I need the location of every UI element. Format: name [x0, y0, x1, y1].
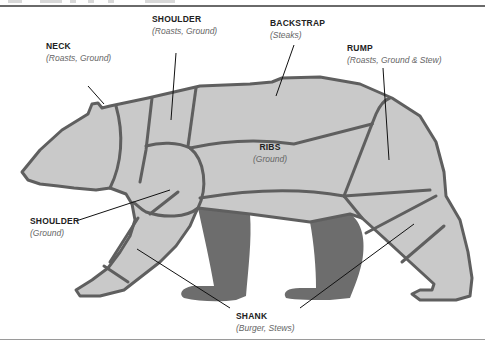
cut-uses: (Roasts, Ground) [152, 25, 217, 37]
cut-uses: (Roasts, Ground & Stew) [347, 54, 441, 66]
label-rump: RUMP (Roasts, Ground & Stew) [347, 42, 441, 66]
far-legs [181, 208, 363, 301]
cut-name: SHOULDER [30, 215, 79, 227]
label-shoulder-upper: SHOULDER (Roasts, Ground) [152, 13, 217, 37]
label-neck: NECK (Roasts, Ground) [46, 40, 111, 64]
cut-uses: (Steaks) [270, 29, 325, 41]
label-shank: SHANK (Burger, Stews) [236, 310, 295, 334]
cut-uses: (Burger, Stews) [236, 322, 295, 334]
label-ribs: RIBS (Ground) [240, 141, 300, 165]
label-shoulder-lower: SHOULDER (Ground) [30, 215, 79, 239]
bottom-divider [0, 339, 485, 340]
cut-name: BACKSTRAP [270, 17, 325, 29]
cut-uses: (Ground) [240, 153, 300, 165]
cut-uses: (Ground) [30, 227, 79, 239]
cut-name: NECK [46, 40, 111, 52]
cut-name: RIBS [240, 141, 300, 153]
leader-neck [88, 86, 104, 104]
cut-name: SHOULDER [152, 13, 217, 25]
label-backstrap: BACKSTRAP (Steaks) [270, 17, 325, 41]
cut-name: SHANK [236, 310, 295, 322]
cut-uses: (Roasts, Ground) [46, 52, 111, 64]
cut-name: RUMP [347, 42, 441, 54]
